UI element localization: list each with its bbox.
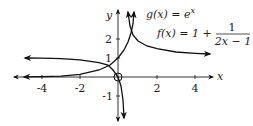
x-tick-label: 4 bbox=[192, 82, 199, 95]
y-tick-label: -1 bbox=[102, 90, 113, 103]
y-tick-label: 1 bbox=[105, 52, 112, 65]
x-axis-label: x bbox=[217, 70, 224, 83]
function-graph: -4 -2 2 4 2 1 -1 x y g(x) = ex f(x) = 1 … bbox=[0, 0, 253, 126]
y-tick-label: 2 bbox=[105, 33, 112, 46]
label-f: f(x) = 1 + bbox=[156, 27, 212, 40]
label-g: g(x) = ex bbox=[146, 6, 196, 21]
label-f-denominator: 2x − 1 bbox=[214, 35, 251, 48]
label-f-numerator: 1 bbox=[229, 21, 236, 34]
y-axis-label: y bbox=[105, 9, 113, 22]
x-tick-label: 2 bbox=[154, 82, 161, 95]
x-tick-label: -2 bbox=[75, 82, 86, 95]
x-tick-label: -4 bbox=[37, 82, 48, 95]
